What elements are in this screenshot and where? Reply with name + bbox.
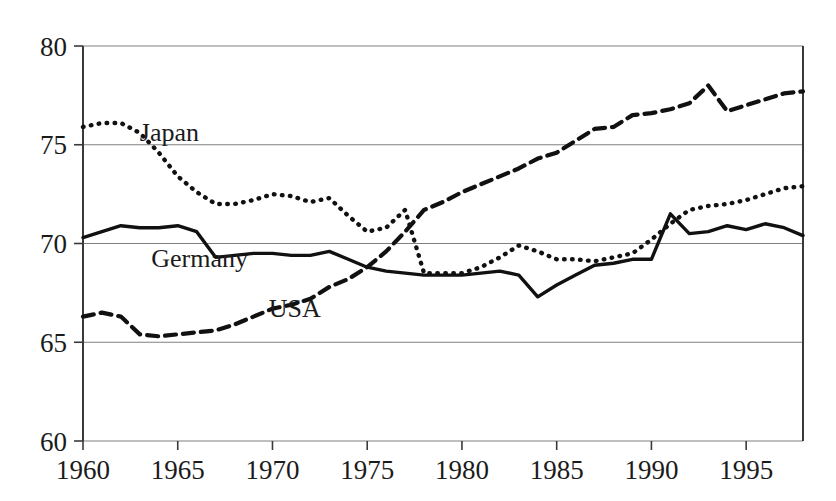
x-tick-label-1980: 1980 — [435, 455, 489, 485]
y-tick-label-80: 80 — [40, 32, 67, 62]
y-tick-label-60: 60 — [40, 427, 67, 457]
line-chart: 6065707580 19601965197019751980198519901… — [0, 0, 836, 501]
y-axis-tick-labels: 6065707580 — [40, 32, 67, 457]
y-tick-label-65: 65 — [40, 328, 67, 358]
x-tick-label-1965: 1965 — [151, 455, 205, 485]
x-tick-label-1975: 1975 — [340, 455, 394, 485]
series-inline-labels: JapanGermanyUSA — [140, 118, 321, 323]
x-tick-label-1990: 1990 — [624, 455, 678, 485]
x-tick-label-1985: 1985 — [530, 455, 584, 485]
x-axis-tick-labels: 19601965197019751980198519901995 — [56, 455, 773, 485]
series-label-usa: USA — [269, 294, 321, 323]
y-tick-label-70: 70 — [40, 229, 67, 259]
series-label-germany: Germany — [151, 244, 248, 273]
series-label-japan: Japan — [140, 118, 199, 147]
x-tick-label-1960: 1960 — [56, 455, 110, 485]
x-tick-label-1970: 1970 — [245, 455, 299, 485]
chart-canvas: 6065707580 19601965197019751980198519901… — [0, 0, 836, 501]
y-tick-label-75: 75 — [40, 130, 67, 160]
x-tick-label-1995: 1995 — [719, 455, 773, 485]
